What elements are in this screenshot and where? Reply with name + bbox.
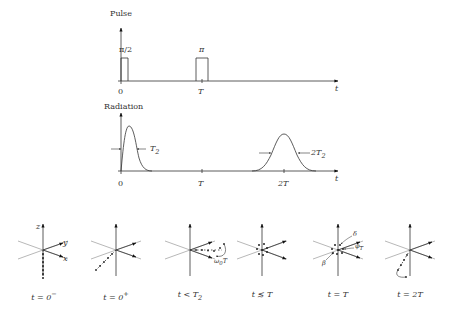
radiation-chart — [111, 113, 338, 174]
panel-t0-minus — [18, 224, 68, 279]
caption-t0-minus: t = 0− — [31, 290, 57, 302]
delta-label: δ — [353, 231, 357, 238]
caption-t-equals-T: t = T — [328, 290, 348, 299]
2t2-annotation: 2T2 — [311, 149, 326, 159]
panel-t0-plus — [91, 224, 141, 276]
pulse-tick-0: 0 — [118, 88, 123, 96]
radiation-tick-T: T — [198, 180, 203, 188]
axis-label-y: y — [63, 239, 68, 247]
pulse-chart — [118, 28, 338, 84]
caption-t0-plus: t = 0+ — [103, 290, 129, 302]
phi-t-label: φT — [355, 243, 363, 252]
panel-t-less-t2 — [165, 224, 226, 276]
caption-t-equals-2T: t = 2T — [397, 290, 422, 299]
spin-echo-diagram — [0, 0, 453, 316]
fid-curve — [121, 126, 152, 171]
panel-t-approx-T — [237, 224, 287, 276]
beta-label: β — [322, 260, 326, 267]
pulse-tick-T: T — [198, 88, 203, 96]
pulse-pi-label: π — [199, 46, 204, 54]
omega-t-label: ω0T — [214, 258, 227, 267]
caption-t-less-t2: t < T2 — [178, 290, 202, 302]
t2-annotation: T2 — [150, 145, 159, 155]
pulse-y-label: Pulse — [110, 10, 132, 18]
pulse-x-label: t — [335, 85, 338, 93]
radiation-y-label: Radiation — [104, 103, 143, 111]
pulse-pi — [196, 58, 208, 81]
pulse-pi-half — [121, 58, 128, 81]
axis-label-z: z — [36, 223, 40, 231]
radiation-tick-0: 0 — [118, 180, 123, 188]
pulse-pi-half-label: π/2 — [119, 46, 132, 54]
echo-curve — [252, 134, 316, 171]
panel-t-equals-2T — [385, 224, 435, 278]
radiation-x-label: t — [335, 175, 338, 183]
caption-t-approx-T: t ≲ T — [252, 290, 273, 299]
radiation-tick-2T: 2T — [278, 180, 288, 188]
axis-label-x: x — [63, 255, 68, 263]
